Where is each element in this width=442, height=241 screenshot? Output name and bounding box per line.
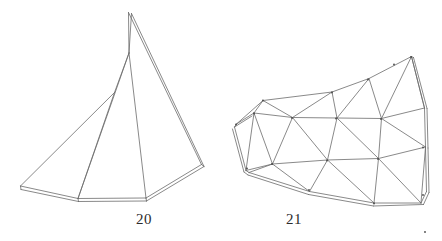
figure-21-vertex xyxy=(331,92,333,94)
figure-21-edge xyxy=(254,113,273,164)
figure-21-edge xyxy=(424,193,430,205)
figure-21-edge xyxy=(428,148,429,193)
figure-plate: 20 21 xyxy=(0,0,442,241)
figure-21-edge xyxy=(382,119,426,148)
figure-21-edge xyxy=(273,160,328,164)
figure-20-edge xyxy=(21,190,79,202)
figure-21-edge xyxy=(310,192,375,204)
figure-20-edge xyxy=(132,14,205,167)
figure-21-edge xyxy=(328,159,379,161)
figure-20-edge xyxy=(129,13,130,54)
figure-21-edge xyxy=(254,113,293,118)
figure-21-vertex xyxy=(308,189,310,191)
figure-21-edge xyxy=(237,113,255,124)
figure-20-edge xyxy=(146,198,147,201)
figure-21-edge xyxy=(328,160,375,203)
figure-21-edge xyxy=(328,118,338,160)
figure-21-edge xyxy=(369,79,382,119)
figure-21-edge xyxy=(293,118,338,119)
figure-21-edge xyxy=(273,118,293,165)
figure-21-edge xyxy=(382,108,425,119)
figure-21-vertex xyxy=(271,163,273,165)
figure-21-vertex xyxy=(373,203,375,205)
figure-20-wireframe xyxy=(21,13,205,202)
figure-21-vertex xyxy=(291,117,293,119)
figure-21-edge xyxy=(244,172,248,175)
figure-21-vertex xyxy=(326,160,328,162)
figure-20-edge xyxy=(78,93,115,199)
figure-20-edge xyxy=(147,167,205,202)
figure-20-edge xyxy=(146,165,202,199)
figure-21-vertex xyxy=(246,168,248,170)
figure-21-edge xyxy=(412,57,425,109)
figure-21-edge xyxy=(309,195,374,207)
figure-20-edge xyxy=(21,186,22,190)
figure-21-edge xyxy=(249,173,310,192)
figure-21-edge xyxy=(379,147,426,159)
figure-21-edge xyxy=(246,113,254,171)
figure-21-edge xyxy=(337,118,379,159)
figure-20-edge xyxy=(78,198,146,199)
figure-21-vertex xyxy=(377,158,379,160)
line-drawing-canvas xyxy=(0,0,442,241)
figure-21-edge xyxy=(246,164,273,171)
figure-21-vertex xyxy=(422,194,424,196)
figure-20-edge xyxy=(129,14,132,54)
figure-20-edge xyxy=(129,53,146,198)
figure-21-edge xyxy=(233,129,245,172)
figure-21-vertex xyxy=(380,118,382,120)
figure-21-edge xyxy=(293,118,328,161)
figure-21-edge xyxy=(332,92,337,118)
figure-21-edge xyxy=(426,147,427,192)
figure-21-vertex xyxy=(335,118,337,120)
figure-21-vertex xyxy=(393,64,395,66)
figure-21-edge xyxy=(374,205,424,207)
figure-21-edge xyxy=(310,160,328,192)
figure-21-edge xyxy=(379,159,422,204)
figure-20-edge xyxy=(21,93,115,187)
figure-21-edge xyxy=(427,109,428,149)
figure-caption-20: 20 xyxy=(136,212,152,227)
figure-21-edge xyxy=(337,118,382,119)
figure-21-edge xyxy=(248,175,309,195)
figure-21-edge xyxy=(382,57,412,119)
figure-20-edge xyxy=(21,186,79,199)
figure-21-vertex xyxy=(253,113,255,115)
figure-21-edge xyxy=(235,127,247,171)
figure-20-edge xyxy=(78,199,79,202)
figure-21-edge xyxy=(374,159,379,204)
figure-21-vertex xyxy=(262,100,264,102)
figure-21-wireframe xyxy=(233,56,430,233)
figure-21-edge xyxy=(379,119,382,159)
figure-21-vertex xyxy=(367,79,369,81)
figure-caption-21: 21 xyxy=(286,212,302,227)
figure-21-edge xyxy=(425,108,426,147)
figure-21-vertex xyxy=(235,124,237,126)
figure-21-vertex xyxy=(424,231,426,233)
figure-21-edge xyxy=(249,164,273,173)
figure-21-edge xyxy=(414,58,428,109)
figure-21-vertex xyxy=(422,147,424,149)
figure-20-edge xyxy=(79,201,147,202)
figure-21-vertex xyxy=(410,56,412,58)
figure-21-edge xyxy=(273,164,310,192)
